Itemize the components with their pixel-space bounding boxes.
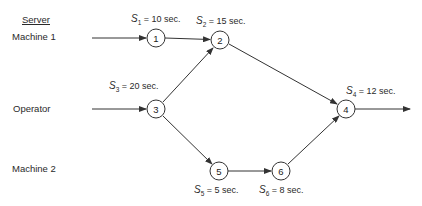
- edge-1-2: [165, 38, 210, 40]
- flow-network: 1 2 3 4 5 6: [0, 0, 422, 206]
- node-5: 5: [210, 162, 228, 180]
- svg-text:3: 3: [153, 104, 158, 115]
- annotation-s3: S3 = 20 sec.: [109, 80, 159, 93]
- node-2: 2: [211, 31, 229, 49]
- node-6: 6: [272, 162, 290, 180]
- annotation-s1: S1 = 10 sec.: [131, 13, 181, 26]
- edge-3-2: [163, 48, 213, 102]
- annotation-s6: S6 = 8 sec.: [259, 184, 304, 197]
- annotation-s2: S2 = 15 sec.: [196, 15, 246, 28]
- edge-3-5: [163, 116, 212, 164]
- edge-2-4: [229, 44, 337, 104]
- svg-text:1: 1: [153, 33, 158, 44]
- edge-6-4: [288, 116, 339, 164]
- node-1: 1: [147, 29, 165, 47]
- annotation-s5: S5 = 5 sec.: [194, 184, 239, 197]
- node-4: 4: [337, 100, 355, 118]
- annotation-s4: S4 = 12 sec.: [346, 85, 396, 98]
- svg-text:6: 6: [278, 166, 283, 177]
- svg-text:4: 4: [343, 104, 348, 115]
- svg-text:2: 2: [217, 35, 222, 46]
- svg-text:5: 5: [216, 166, 221, 177]
- node-3: 3: [147, 100, 165, 118]
